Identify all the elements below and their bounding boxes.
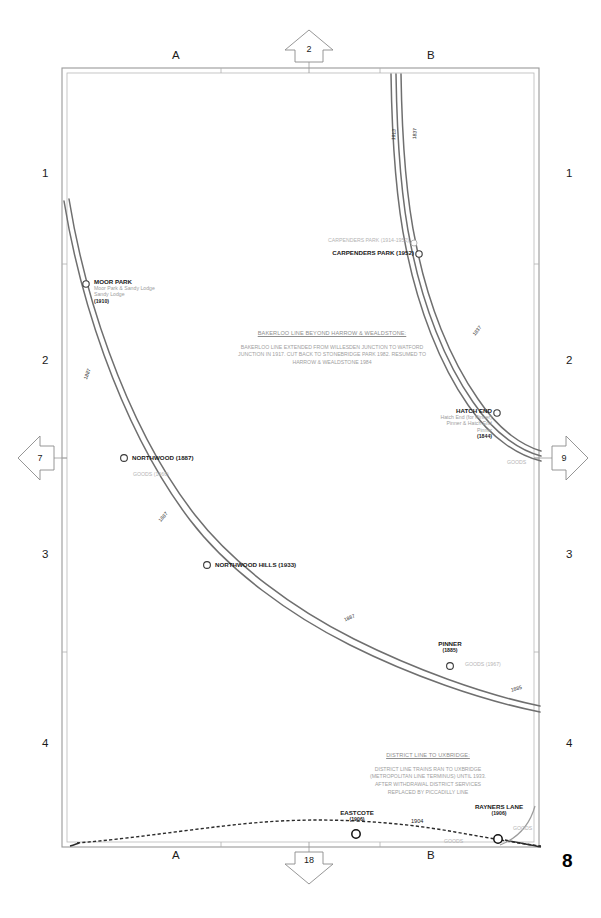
- pinner-opened: (1885): [417, 647, 483, 653]
- met-track-b: [69, 199, 540, 706]
- hatch-end-opened: (1844): [374, 433, 492, 439]
- station-marker-northwood-hills: [204, 562, 211, 569]
- note-bakerloo-line-1: BAKERLOO LINE EXTENDED FROM WILLESDEN JU…: [212, 344, 452, 352]
- grid-number-right-1: 1: [566, 167, 572, 179]
- diagram-sheet: A B A B 1 2 3 4 1 2 3 4 2 18 7 9 MOOR PA…: [0, 0, 601, 918]
- grid-letter-top-a: A: [172, 49, 180, 61]
- station-label-carpenders-park-old: CARPENDERS PARK (1914-1952): [234, 237, 409, 243]
- note-bakerloo-line-2: JUNCTION IN 1917. CUT BACK TO STONEBRIDG…: [212, 351, 452, 359]
- date-tag-1904-district: 1904: [411, 818, 423, 825]
- moor-park-name: MOOR PARK: [94, 278, 155, 285]
- grid-number-left-1: 1: [42, 167, 48, 179]
- eastcote-name: EASTCOTE: [324, 809, 390, 816]
- station-label-eastcote: EASTCOTE (1906): [324, 809, 390, 822]
- note-district-line-1: DISTRICT LINE TRAINS RAN TO UXBRIDGE: [308, 766, 548, 774]
- station-marker-carpenders: [416, 251, 422, 257]
- grid-number-right-3: 3: [566, 548, 572, 560]
- connector-top-label[interactable]: 2: [294, 44, 324, 54]
- station-marker-hatch-end: [494, 410, 500, 416]
- station-marker-pinner: [447, 663, 454, 670]
- grid-letter-bottom-b: B: [427, 849, 435, 861]
- note-district-title: DISTRICT LINE TO UXBRIDGE:: [308, 752, 548, 759]
- note-district: DISTRICT LINE TO UXBRIDGE: DISTRICT LINE…: [308, 752, 548, 797]
- lnwr-track-c: [401, 74, 541, 451]
- grid-number-left-3: 3: [42, 548, 48, 560]
- station-label-northwood-hills: NORTHWOOD HILLS (1933): [215, 561, 296, 568]
- hatch-end-goods: GOODS: [507, 459, 526, 465]
- hatch-end-name: HATCH END: [374, 407, 492, 414]
- grid-number-right-4: 4: [566, 737, 572, 749]
- station-label-pinner: PINNER (1885): [417, 640, 483, 653]
- connector-right-label[interactable]: 9: [555, 453, 573, 463]
- station-label-carpenders-park: CARPENDERS PARK (1952): [234, 249, 414, 256]
- station-label-hatch-end: HATCH END Hatch End (for Pinner) Pinner …: [374, 407, 492, 439]
- grid-letter-bottom-a: A: [172, 849, 180, 861]
- date-tag-1837-top: 1837: [411, 128, 418, 140]
- northwood-goods: GOODS (1966): [133, 471, 169, 477]
- note-bakerloo-title: BAKERLOO LINE BEYOND HARROW & WEALDSTONE…: [212, 330, 452, 337]
- connector-bottom-label[interactable]: 18: [294, 855, 324, 865]
- grid-number-right-2: 2: [566, 354, 572, 366]
- district-line-tails: [70, 840, 541, 847]
- station-marker-rayners-lane: [494, 835, 502, 843]
- note-district-line-3: AFTER WITHDRAWAL DISTRICT SERVICES: [308, 781, 548, 789]
- note-bakerloo-line-3: HARROW & WEALDSTONE 1984: [212, 359, 452, 367]
- date-tag-1913: 1913: [390, 129, 397, 141]
- station-marker-carpenders-old: [411, 240, 417, 246]
- pinner-goods: GOODS (1967): [465, 661, 501, 667]
- moor-park-opened: (1910): [94, 298, 155, 304]
- lnwr-track-b: [396, 74, 541, 456]
- note-bakerloo: BAKERLOO LINE BEYOND HARROW & WEALDSTONE…: [212, 330, 452, 367]
- grid-letter-top-b: B: [427, 49, 435, 61]
- station-marker-northwood: [121, 455, 128, 462]
- station-marker-eastcote: [352, 830, 360, 838]
- connector-left-label[interactable]: 7: [31, 453, 49, 463]
- note-district-line-4: REPLACED BY PICCADILLY LINE: [308, 789, 548, 797]
- station-marker-moor-park: [83, 281, 89, 287]
- pinner-name: PINNER: [417, 640, 483, 647]
- station-label-moor-park: MOOR PARK Moor Park & Sandy Lodge Sandy …: [94, 278, 155, 304]
- rayners-lane-name: RAYNERS LANE: [466, 803, 532, 810]
- note-district-line-2: (METROPOLITAN LINE TERMINUS) UNTIL 1933.: [308, 773, 548, 781]
- page-number: 8: [562, 850, 573, 872]
- rayners-lane-goods: GOODS: [513, 825, 532, 831]
- station-label-northwood: NORTHWOOD (1887): [132, 454, 194, 461]
- eastcote-opened: (1906): [324, 816, 390, 822]
- rayners-lane-opened: (1906): [466, 810, 532, 816]
- eastcote-goods: GOODS: [444, 838, 463, 844]
- station-label-rayners-lane: RAYNERS LANE (1906): [466, 803, 532, 816]
- grid-number-left-2: 2: [42, 354, 48, 366]
- grid-number-left-4: 4: [42, 737, 48, 749]
